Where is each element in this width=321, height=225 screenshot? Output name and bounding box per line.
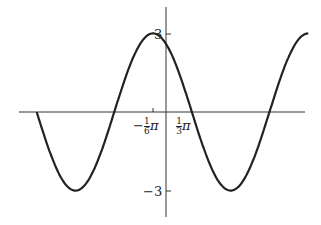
x-tick-label-neg-pi-6: −16π (133, 117, 158, 136)
chart: 3 −3 −16π 13π (0, 0, 321, 225)
y-tick-label-3: 3 (154, 28, 162, 41)
x-tick-label-pi-3: 13π (176, 117, 191, 136)
y-tick-label-neg3: −3 (143, 185, 162, 198)
